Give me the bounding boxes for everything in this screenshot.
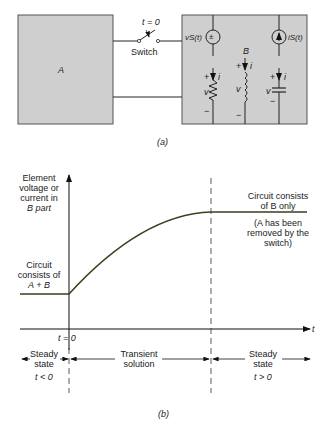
final-state-label: Circuit consists of B only: [238, 191, 318, 211]
capacitor-current: i: [284, 72, 286, 82]
block-a: [18, 15, 113, 124]
capacitor-plus: +: [270, 72, 275, 82]
capacitor-minus: −: [270, 96, 275, 106]
y-axis-label: Element voltage or current in B part: [14, 173, 64, 213]
caption-a: (a): [157, 137, 168, 147]
region-steady-before: Steady state t < 0: [26, 349, 62, 382]
capacitor-voltage: v: [266, 86, 271, 96]
block-b-label: B: [243, 46, 249, 56]
switch-label: Switch: [131, 47, 158, 57]
voltage-source-label: vS(t): [185, 33, 202, 43]
voltage-source-symbol: ±: [209, 32, 213, 42]
current-source-label: iS(t): [288, 33, 303, 43]
initial-state-label: Circuit consists of A + B: [12, 260, 66, 290]
resistor-voltage: v: [204, 87, 209, 97]
resistor-current: i: [218, 72, 220, 82]
caption-b: (b): [158, 409, 169, 419]
inductor-plus: +: [236, 61, 241, 71]
switch-time-label: t = 0: [142, 17, 160, 27]
final-state-note: (A has been removed by the switch): [240, 218, 316, 248]
inductor-current: i: [250, 61, 252, 71]
block-a-label: A: [58, 65, 64, 75]
inductor-voltage: v: [236, 84, 241, 94]
region-transient: Transient solution: [112, 349, 166, 369]
t0-label: t = 0: [58, 333, 76, 343]
resistor-plus: +: [204, 72, 209, 82]
region-steady-after: Steady state t > 0: [244, 349, 282, 382]
resistor-minus: −: [204, 106, 209, 116]
switch-icon: [137, 30, 159, 43]
x-axis-label: t: [312, 324, 315, 334]
inductor-minus: −: [236, 110, 241, 120]
